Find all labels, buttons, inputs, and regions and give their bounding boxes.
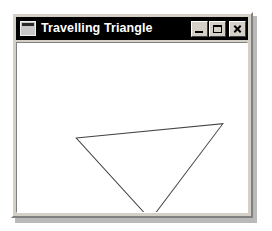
window-title: Travelling Triangle <box>41 22 191 36</box>
caption-button-group <box>191 21 246 37</box>
minimize-icon <box>195 31 203 33</box>
maximize-icon <box>213 25 222 33</box>
title-bar[interactable]: Travelling Triangle <box>16 17 248 40</box>
window-menu-icon[interactable] <box>20 21 36 36</box>
maximize-button[interactable] <box>209 21 226 37</box>
triangle-canvas <box>17 43 247 212</box>
window-inner-frame: Travelling Triangle <box>16 17 248 213</box>
minimize-button[interactable] <box>191 21 208 37</box>
application-window[interactable]: Travelling Triangle <box>11 12 253 218</box>
desktop-background: Travelling Triangle <box>0 0 272 231</box>
client-area[interactable] <box>16 42 248 213</box>
close-icon <box>230 22 245 36</box>
travelling-triangle <box>76 124 223 212</box>
close-button[interactable] <box>229 21 246 37</box>
